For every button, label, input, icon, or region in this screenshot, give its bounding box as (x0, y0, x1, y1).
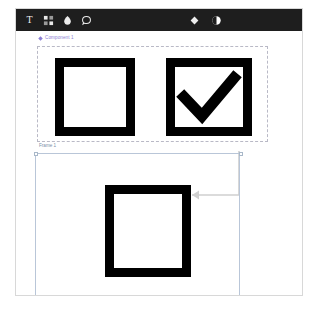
text-tool-button[interactable]: T (23, 14, 36, 27)
frame-label[interactable]: Frame 1 (39, 144, 56, 149)
toolbar-left-group: T (16, 14, 93, 27)
comment-tool-button[interactable] (80, 14, 93, 27)
comment-icon (81, 15, 92, 26)
component-group-label[interactable]: Component 1 (38, 36, 74, 41)
components-icon (43, 15, 54, 26)
component-badge-button[interactable] (188, 14, 201, 27)
selection-handle-top-left[interactable] (34, 152, 38, 156)
checkbox-instance[interactable] (105, 185, 191, 277)
selection-handle-top-right[interactable] (239, 152, 243, 156)
frame-container[interactable]: Frame 1 (35, 153, 240, 296)
canvas[interactable]: Component 1 Frame 1 (16, 31, 302, 296)
diamond-icon (38, 36, 43, 41)
diamond-icon (190, 16, 199, 25)
pen-tool-button[interactable] (61, 14, 74, 27)
component-group-label-text: Component 1 (45, 36, 74, 41)
pen-icon (62, 15, 73, 26)
components-tool-button[interactable] (42, 14, 55, 27)
text-icon: T (26, 15, 32, 25)
component-group[interactable]: Component 1 (37, 46, 268, 142)
checkbox-checked[interactable] (166, 58, 252, 136)
toolbar: T (16, 9, 302, 31)
toolbar-right-group (188, 9, 223, 31)
contrast-circle-icon (211, 15, 222, 26)
checkbox-unchecked[interactable] (55, 58, 135, 136)
app-window: T (15, 8, 303, 296)
theme-toggle-button[interactable] (210, 14, 223, 27)
